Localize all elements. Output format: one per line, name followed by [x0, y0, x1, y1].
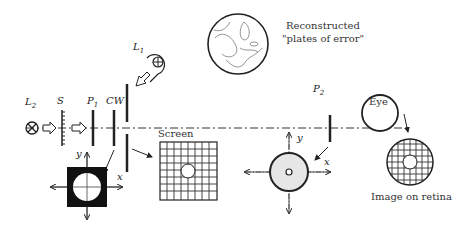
- axis-label-y: y: [296, 132, 303, 143]
- pointer-arrow: [132, 149, 152, 157]
- aperture-mask: [50, 152, 123, 219]
- retina-caption: Image on retina: [371, 191, 452, 202]
- label-p2: P2: [312, 83, 325, 97]
- hollow-arrow-icon: [136, 72, 150, 86]
- label-cw: CW: [106, 95, 125, 106]
- label-eye: Eye: [369, 96, 388, 107]
- optical-setup-diagram: L2 S P1 CW L1 Reconstructed "plates: [0, 0, 468, 231]
- plates-of-error-map: [208, 14, 268, 74]
- axis-label-y: y: [75, 148, 82, 159]
- axis-label-x: x: [117, 171, 123, 182]
- reconstructed-caption-line2: "plates of error": [282, 33, 364, 44]
- label-l1: L1: [132, 41, 144, 55]
- axis-label-x: x: [324, 156, 330, 167]
- screen-caption: Screen: [158, 128, 194, 139]
- pointer-arrow: [404, 114, 408, 132]
- hollow-arrow-icon: [72, 122, 86, 134]
- label-s: S: [57, 95, 64, 106]
- label-p1: P1: [86, 95, 98, 109]
- retina-image: [385, 135, 435, 190]
- lamp-l1: [147, 55, 164, 82]
- reconstructed-caption-line1: Reconstructed: [286, 20, 360, 31]
- label-l2: L2: [24, 96, 37, 110]
- analyzer-disk: [245, 133, 332, 213]
- screen-grid: [160, 142, 217, 200]
- hollow-arrow-icon: [43, 122, 56, 134]
